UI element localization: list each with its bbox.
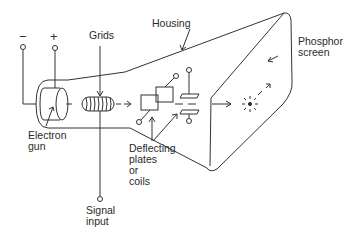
label-electron-gun: Electron gun <box>28 130 67 152</box>
label-housing: Housing <box>152 18 191 29</box>
label-deflecting-plates-or-coils: Deflecting plates or coils <box>129 143 176 187</box>
label-pointers <box>46 29 278 141</box>
deflecting-coils <box>137 74 179 125</box>
phosphor-spot <box>242 96 258 112</box>
electron-gun <box>36 80 72 128</box>
grid-coil <box>82 97 114 202</box>
terminal-negative <box>21 45 37 105</box>
label-grids: Grids <box>89 30 114 41</box>
electron-beam <box>116 84 270 107</box>
deflecting-plates <box>180 68 199 124</box>
negative-terminal-label: − <box>19 29 27 44</box>
label-signal-input: Signal input <box>86 205 115 227</box>
label-phosphor-screen: Phosphor screen <box>298 36 343 58</box>
terminal-positive <box>53 46 58 89</box>
positive-terminal-label: + <box>50 29 58 44</box>
